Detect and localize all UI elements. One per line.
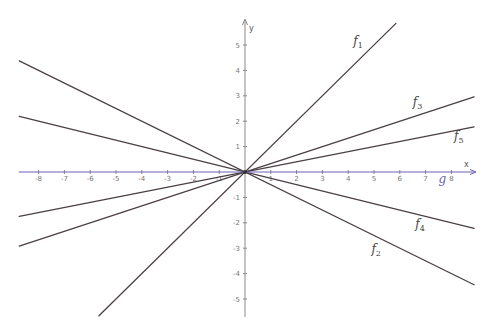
label-f4: f4 <box>414 217 425 233</box>
x-tick-label: -7 <box>61 175 68 183</box>
x-tick-label: -4 <box>138 175 146 183</box>
y-tick-label: -4 <box>233 270 241 278</box>
label-f2: f2 <box>370 242 381 258</box>
x-tick-label: -5 <box>113 175 120 183</box>
label-g: g <box>439 172 447 186</box>
x-tick-label: -8 <box>35 175 42 183</box>
label-f5: f5 <box>453 129 464 145</box>
x-tick-label: 5 <box>372 175 376 183</box>
y-tick-label: -3 <box>233 245 240 253</box>
y-tick-label: 2 <box>236 118 240 126</box>
origin-point <box>243 170 247 174</box>
x-tick-label: -6 <box>87 175 95 183</box>
y-tick-label: 4 <box>236 67 241 75</box>
y-tick-label: -2 <box>233 219 240 227</box>
x-axis-label: x <box>464 160 469 169</box>
function-labels: f1f3f5f4f2g <box>352 34 463 258</box>
y-tick-label: 1 <box>236 143 240 151</box>
y-tick-label: -1 <box>233 194 240 202</box>
x-tick-label: -3 <box>164 175 171 183</box>
x-tick-label: 3 <box>320 175 324 183</box>
x-tick-label: 7 <box>423 175 427 183</box>
label-f1: f1 <box>352 34 363 50</box>
function-plot: y-5-4-3-2-112345-8-7-6-5-4-3-2-112345678… <box>0 0 493 332</box>
label-f3: f3 <box>412 95 423 111</box>
function-lines <box>19 23 474 315</box>
line-f1 <box>99 23 396 315</box>
y-tick-label: 5 <box>236 42 240 50</box>
y-axis-label: y <box>249 24 254 33</box>
x-tick-label: 2 <box>294 175 298 183</box>
y-tick-label: -5 <box>233 296 240 304</box>
x-tick-label: 8 <box>449 175 453 183</box>
x-tick-label: 6 <box>398 175 403 183</box>
y-tick-label: 3 <box>236 92 240 100</box>
x-tick-label: 4 <box>346 175 351 183</box>
